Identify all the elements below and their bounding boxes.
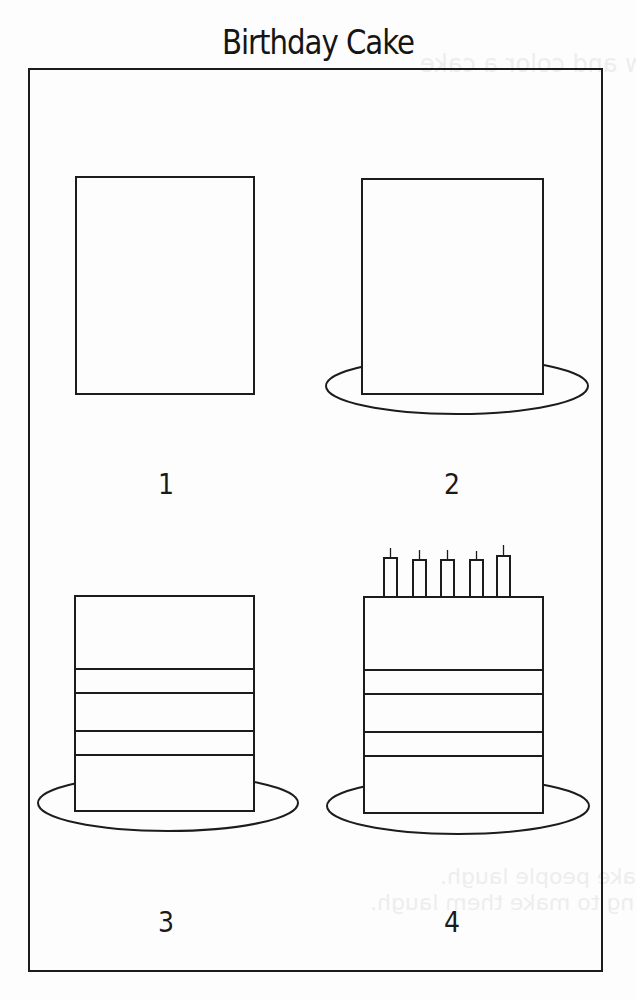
candle-outline [497, 556, 510, 597]
worksheet-page: Draw and color a cake Clowns make people… [0, 0, 636, 1000]
drawing-steps-frame [0, 0, 636, 1000]
step-number-2: 2 [434, 470, 470, 500]
candle-outline [441, 560, 454, 597]
step-number-4: 4 [434, 908, 470, 938]
candle-outline [470, 560, 483, 597]
step-2-drawing [326, 179, 588, 414]
step-number-3: 3 [148, 908, 184, 938]
cake-body-outline [364, 597, 543, 813]
cake-body-outline [362, 179, 543, 394]
candle-outline [413, 560, 426, 597]
step-number-1: 1 [148, 470, 184, 500]
cake-body-outline [75, 596, 254, 811]
step-4-drawing [327, 545, 589, 834]
cake-body-outline [76, 177, 254, 394]
step-1-drawing [76, 177, 254, 394]
candle-outline [384, 558, 397, 597]
step-3-drawing [38, 596, 298, 831]
